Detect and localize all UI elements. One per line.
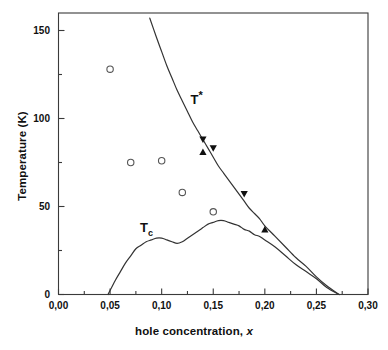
data-markers	[107, 66, 269, 232]
x-tick-label-3: 0,15	[193, 300, 233, 311]
marker-2-4	[210, 209, 216, 215]
y-tick-label-2: 100	[10, 113, 50, 124]
y-tick-label-0: 0	[10, 289, 50, 300]
x-axis-title-text: hole concentration,	[135, 325, 246, 337]
t-star-curve-label: T*	[191, 89, 203, 107]
tc-letter: T	[140, 220, 148, 235]
phase-diagram-figure: Temperature (K) hole concentration, x T*…	[0, 0, 388, 350]
marker-2-2	[158, 158, 164, 164]
curve-0	[150, 18, 339, 294]
x-tick-label-0: 0,00	[39, 300, 79, 311]
x-tick-label-1: 0,05	[90, 300, 130, 311]
x-axis-title-variable: x	[246, 325, 253, 337]
y-tick-label-1: 50	[10, 201, 50, 212]
tc-subscript: c	[148, 227, 153, 237]
x-tick-label-4: 0,20	[245, 300, 285, 311]
x-tick-label-6: 0,30	[348, 300, 388, 311]
plot-frame	[59, 13, 369, 295]
plot-canvas	[0, 0, 388, 350]
tc-curve-label: Tc	[140, 220, 153, 238]
x-tick-label-5: 0,25	[296, 300, 336, 311]
plot-border	[59, 13, 369, 295]
curve-lines	[108, 18, 339, 294]
marker-3-2	[241, 191, 248, 197]
x-tick-label-2: 0,10	[142, 300, 182, 311]
t-star-asterisk: *	[199, 89, 203, 101]
marker-3-1	[210, 145, 217, 151]
x-axis-title: hole concentration, x	[0, 325, 388, 337]
marker-2-3	[179, 189, 185, 195]
marker-2-1	[128, 159, 134, 165]
marker-3-0	[199, 137, 206, 143]
t-star-letter: T	[191, 93, 199, 108]
axis-ticks	[59, 31, 369, 295]
y-tick-label-3: 150	[10, 25, 50, 36]
marker-4-0	[199, 149, 206, 155]
marker-2-0	[107, 66, 113, 72]
